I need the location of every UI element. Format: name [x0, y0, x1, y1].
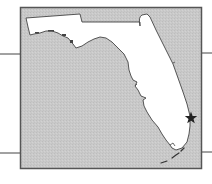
map-canvas	[0, 0, 212, 184]
florida-locator-map	[0, 0, 212, 184]
